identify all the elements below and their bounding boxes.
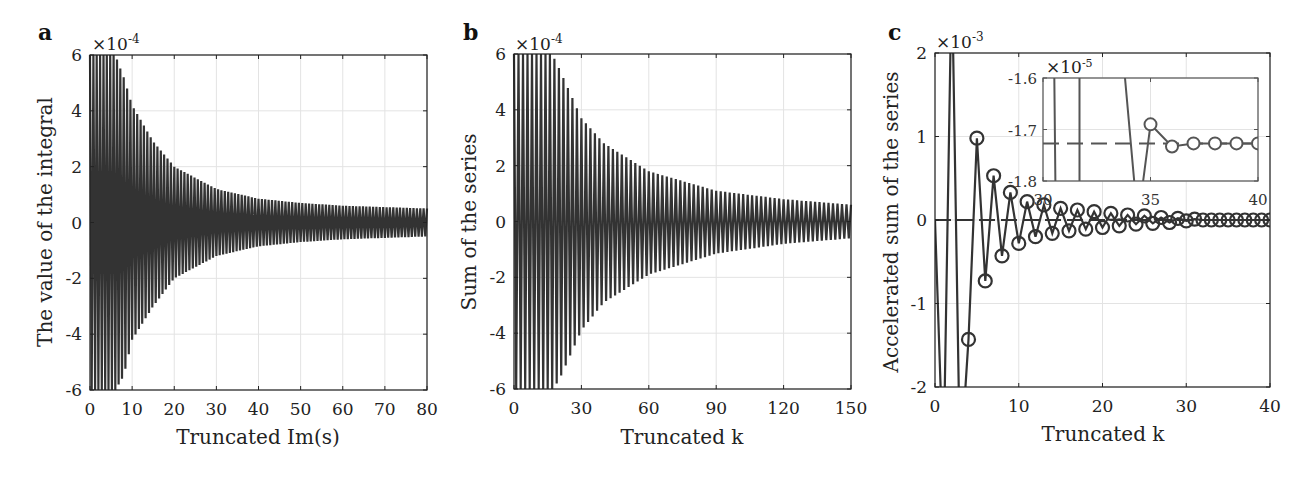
y-tick-label: 0	[495, 212, 506, 232]
y-tick-label: -6	[65, 380, 82, 400]
y-axis-label-a: The value of the integral	[33, 97, 57, 347]
y-tick-label: -2	[65, 268, 82, 288]
y-tick-label: -4	[489, 323, 506, 343]
y-axis-label-b: Sum of the series	[457, 134, 481, 311]
y-tick-label: 4	[71, 101, 82, 121]
x-tick-label: 60	[638, 398, 660, 418]
x-tick-label: 30	[571, 398, 593, 418]
x-tick-label: 70	[374, 399, 396, 419]
y-tick-label: 2	[495, 156, 506, 176]
x-tick-label: 60	[332, 399, 354, 419]
x-tick-label: 0	[930, 396, 941, 416]
panel-a: a ×10-4 01020304050607080 6420-2-4-6 Tru…	[33, 19, 438, 449]
x-tick-label: 80	[416, 399, 438, 419]
panel-letter-a: a	[38, 19, 52, 45]
y-multiplier-a: ×10-4	[92, 32, 140, 54]
x-tick-label: 40	[1248, 191, 1267, 209]
y-tick-label: 0	[71, 213, 82, 233]
x-tick-label: 150	[835, 398, 867, 418]
x-axis-label-b: Truncated k	[621, 425, 745, 449]
x-tick-label: 30	[1175, 396, 1197, 416]
y-tick-label: 2	[71, 157, 82, 177]
figure: a ×10-4 01020304050607080 6420-2-4-6 Tru…	[0, 0, 1308, 478]
panel-c: c ×10-3 010203040 210-1-2 Truncated k Ac…	[879, 0, 1281, 471]
inset-marker	[1231, 137, 1243, 149]
y-tick-label: -2	[910, 377, 927, 397]
x-tick-label: 35	[1141, 191, 1160, 209]
x-tick-label: 120	[767, 398, 799, 418]
x-tick-label: 10	[1008, 396, 1030, 416]
x-tick-label: 40	[1259, 396, 1281, 416]
y-tick-label: 6	[495, 44, 506, 64]
y-tick-label: -6	[489, 379, 506, 399]
x-tick-label: 30	[206, 399, 228, 419]
y-tick-label: -4	[65, 324, 82, 344]
x-axis-label-c: Truncated k	[1042, 422, 1166, 446]
y-tick-label: 0	[916, 210, 927, 230]
y-axis-label-c: Accelerated sum of the series	[879, 72, 903, 374]
inset-marker	[1166, 140, 1178, 152]
y-tick-label: 1	[916, 127, 927, 147]
panel-letter-c: c	[888, 19, 901, 45]
panel-b: b ×10-4 0306090120150 6420-2-4-6 Truncat…	[457, 19, 867, 449]
x-tick-label: 20	[163, 399, 185, 419]
y-tick-label: -1.8	[1008, 173, 1037, 191]
inset-marker	[1209, 137, 1221, 149]
y-tick-label: -1	[910, 294, 927, 314]
x-tick-label: 30	[1033, 191, 1052, 209]
x-tick-label: 90	[705, 398, 727, 418]
inset-y-multiplier: ×10-5	[1046, 57, 1093, 77]
x-tick-label: 0	[509, 398, 520, 418]
x-tick-label: 20	[1092, 396, 1114, 416]
y-tick-label: 4	[495, 100, 506, 120]
y-tick-label: -1.7	[1008, 122, 1037, 140]
inset-marker	[1145, 118, 1157, 130]
x-axis-label-a: Truncated Im(s)	[176, 425, 340, 449]
panel-letter-b: b	[463, 19, 478, 45]
x-tick-label: 50	[290, 399, 312, 419]
y-tick-label: -1.6	[1008, 70, 1037, 88]
inset-marker	[1188, 137, 1200, 149]
y-multiplier-b: ×10-4	[515, 32, 563, 54]
x-tick-label: 40	[248, 399, 270, 419]
y-tick-label: 2	[916, 43, 927, 63]
y-tick-label: 6	[71, 45, 82, 65]
x-tick-label: 10	[121, 399, 143, 419]
y-tick-label: -2	[489, 267, 506, 287]
x-tick-label: 0	[85, 399, 96, 419]
y-multiplier-c: ×10-3	[936, 30, 984, 52]
inset-c: ×10-5 303540 -1.6-1.7-1.8	[1008, 27, 1267, 233]
